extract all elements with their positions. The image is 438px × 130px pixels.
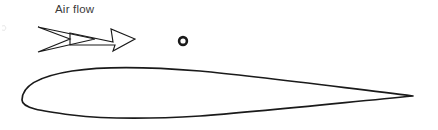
arrow-head-shaft [70,29,135,51]
airflow-airfoil-diagram: Air flow [0,0,438,130]
diagram-canvas: Air flow [0,0,438,130]
air-flow-label: Air flow [55,3,95,15]
arrow-tail-chevron [38,27,95,52]
reference-point-marker [179,37,187,45]
airfoil-cross-section [22,68,413,119]
scan-artifact-mark [2,25,6,30]
